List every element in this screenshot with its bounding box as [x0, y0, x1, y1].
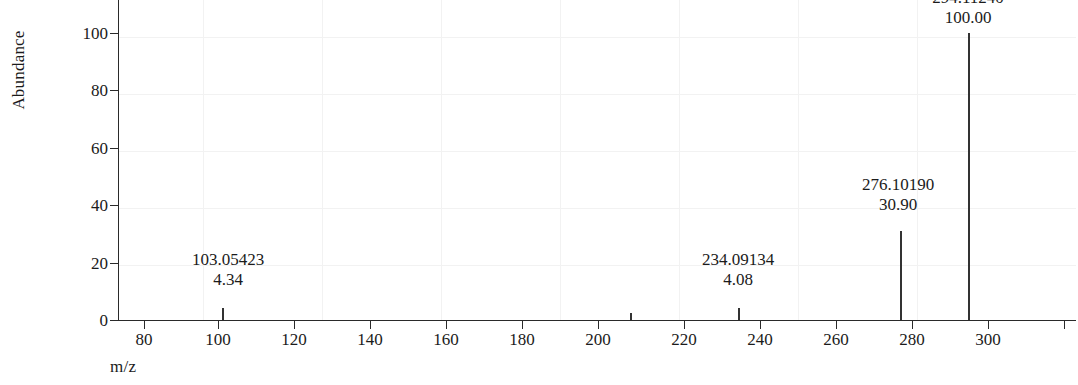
peak-abundance-label: 4.34 — [143, 270, 313, 290]
x-axis-tick — [684, 320, 685, 329]
x-axis-tick — [522, 320, 523, 329]
peak-label: 103.05423 4.34 — [143, 250, 313, 289]
x-axis-tick — [144, 320, 145, 329]
x-axis-tick — [912, 320, 913, 329]
spectrum-peak — [222, 308, 224, 320]
x-axis-tick — [598, 320, 599, 329]
y-axis-tick-label: 80 — [60, 82, 108, 99]
x-axis-tick-label: 260 — [806, 331, 866, 348]
grid-line-vertical — [917, 0, 918, 320]
peak-mz-label: 294.11240 — [883, 0, 1053, 8]
x-axis-tick-label: 240 — [730, 331, 790, 348]
x-axis-tick — [1064, 320, 1065, 329]
y-axis-tick — [110, 33, 119, 34]
x-axis-tick — [760, 320, 761, 329]
spectrum-peak — [630, 313, 632, 320]
peak-label: 276.10190 30.90 — [813, 175, 983, 214]
x-axis-tick — [294, 320, 295, 329]
peak-mz-label: 276.10190 — [813, 175, 983, 195]
peak-mz-label: 234.09134 — [653, 250, 823, 270]
grid-line-vertical — [560, 0, 561, 320]
peak-label: 234.09134 4.08 — [653, 250, 823, 289]
x-axis-tick-label: 300 — [958, 331, 1018, 348]
y-axis-tick — [110, 90, 119, 91]
y-axis-tick-label: 60 — [60, 140, 108, 157]
grid-line-horizontal — [119, 151, 1076, 152]
x-axis-tick-label: 100 — [188, 331, 248, 348]
y-axis-tick — [110, 205, 119, 206]
peak-abundance-label: 4.08 — [653, 270, 823, 290]
y-axis-tick-label: 0 — [60, 312, 108, 329]
x-axis-tick — [836, 320, 837, 329]
grid-line-vertical — [441, 0, 442, 320]
x-axis-line — [118, 320, 1076, 321]
y-axis-tick — [110, 263, 119, 264]
x-axis-tick-label: 160 — [416, 331, 476, 348]
spectrum-peak — [738, 308, 740, 320]
x-axis-tick — [218, 320, 219, 329]
y-axis-line — [118, 0, 119, 321]
peak-label-base: 294.11240 100.00 — [883, 0, 1053, 27]
grid-line-horizontal — [119, 37, 1076, 38]
grid-line-horizontal — [119, 94, 1076, 95]
x-axis-tick-label: 80 — [114, 331, 174, 348]
peak-mz-label: 103.05423 — [143, 250, 313, 270]
mass-spectrum-figure: Abundance m/z 100 80 60 40 20 0 80 100 1… — [0, 0, 1078, 385]
x-axis-tick-label: 220 — [654, 331, 714, 348]
peak-abundance-label: 30.90 — [813, 195, 983, 215]
y-axis-tick — [110, 148, 119, 149]
x-axis-tick-label: 140 — [340, 331, 400, 348]
spectrum-peak — [900, 231, 902, 320]
spectrum-peak-base — [968, 33, 970, 320]
x-axis-title: m/z — [110, 357, 136, 377]
x-axis-tick-label: 120 — [264, 331, 324, 348]
y-axis-tick-label: 20 — [60, 255, 108, 272]
peak-abundance-label: 100.00 — [883, 8, 1053, 28]
y-axis-title: Abundance — [9, 10, 29, 130]
y-axis-tick-label: 40 — [60, 197, 108, 214]
x-axis-tick-label: 180 — [492, 331, 552, 348]
x-axis-tick-label: 280 — [882, 331, 942, 348]
x-axis-tick — [988, 320, 989, 329]
x-axis-tick — [370, 320, 371, 329]
y-axis-tick-label: 100 — [60, 25, 108, 42]
x-axis-tick-label: 200 — [568, 331, 628, 348]
grid-line-vertical — [322, 0, 323, 320]
x-axis-tick — [446, 320, 447, 329]
